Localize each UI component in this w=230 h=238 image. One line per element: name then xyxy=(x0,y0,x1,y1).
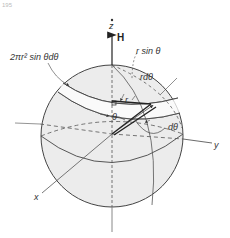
label-d-theta: dθ xyxy=(168,123,178,132)
label-r: r xyxy=(125,96,128,105)
label-y-axis: y xyxy=(214,141,219,150)
back-axis xyxy=(15,123,40,124)
sphere-diagram: 195 z H 2πr² sin θdθ r sin θ rdθ r θ dθ … xyxy=(0,0,230,238)
ring-leader xyxy=(48,63,68,85)
label-x-axis: x xyxy=(34,193,39,202)
label-r-sin-theta: r sin θ xyxy=(136,47,160,56)
label-r-dtheta: rdθ xyxy=(140,73,153,82)
label-field-h: H xyxy=(117,33,124,43)
label-ring-area: 2πr² sin θdθ xyxy=(10,53,58,62)
y-axis xyxy=(183,139,212,143)
page-number: 195 xyxy=(2,2,12,8)
label-theta: θ xyxy=(112,113,117,122)
label-z-axis: z xyxy=(109,22,114,31)
